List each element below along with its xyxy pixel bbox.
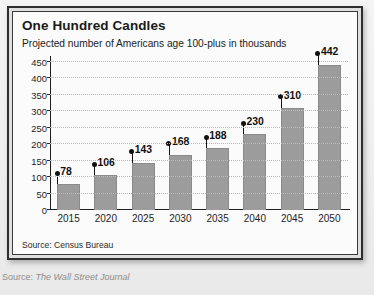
bar[interactable] (243, 134, 266, 210)
chart-subtitle: Projected number of Americans age 100-pl… (22, 38, 286, 49)
chart-source-note: Source: Census Bureau (22, 240, 113, 250)
x-axis-tick-label: 2035 (207, 213, 229, 224)
bar-marker-dot (92, 162, 97, 167)
figure-caption: Source: The Wall Street Journal (2, 272, 129, 282)
bar-slot: 782015 (50, 62, 87, 210)
chart-plot: 7820151062020143202516820301882035230204… (22, 56, 352, 236)
bar-marker-dot (55, 171, 60, 176)
bar-marker-dot (241, 121, 246, 126)
bar-value-label: 188 (209, 130, 226, 141)
bar-value-label: 106 (97, 157, 114, 168)
bar-slot: 4422050 (311, 62, 348, 210)
bar-slot: 3102045 (274, 62, 311, 210)
x-axis-tick-label: 2050 (318, 213, 340, 224)
gridline (50, 110, 348, 111)
y-axis-tick-mark (47, 61, 50, 62)
y-axis-tick-mark (47, 209, 50, 210)
bar-slot: 1062020 (87, 62, 124, 210)
gridline (50, 160, 348, 161)
y-axis-tick-mark (47, 94, 50, 95)
y-axis-tick-label: 200 (31, 139, 47, 150)
y-axis-tick-label: 0 (42, 205, 47, 216)
bar-value-label: 143 (135, 144, 152, 155)
y-axis-tick-mark (47, 127, 50, 128)
bar[interactable] (318, 65, 341, 210)
bar-marker-dot (129, 149, 134, 154)
figure-inner-panel: One Hundred Candles Projected number of … (12, 11, 358, 255)
bar[interactable] (57, 184, 80, 210)
bar-slot: 1682030 (162, 62, 199, 210)
gridline (50, 193, 348, 194)
bar-series: 7820151062020143202516820301882035230204… (50, 62, 348, 210)
figure-frame: One Hundred Candles Projected number of … (7, 6, 363, 260)
bar-value-label: 310 (284, 90, 301, 101)
x-axis-tick-label: 2045 (281, 213, 303, 224)
gridline (50, 176, 348, 177)
gridline (50, 77, 348, 78)
bar-value-label: 168 (172, 136, 189, 147)
caption-prefix: Source: (2, 272, 36, 282)
y-axis-tick-mark (47, 160, 50, 161)
y-axis-tick-mark (47, 193, 50, 194)
x-axis-tick-label: 2030 (169, 213, 191, 224)
x-axis-tick-label: 2015 (58, 213, 80, 224)
chart-title: One Hundred Candles (22, 18, 166, 33)
gridline (50, 127, 348, 128)
bar-slot: 1882035 (199, 62, 236, 210)
bar-marker-dot (204, 135, 209, 140)
y-axis-tick-label: 300 (31, 106, 47, 117)
caption-publication: The Wall Street Journal (36, 272, 130, 282)
bar-slot: 2302040 (236, 62, 273, 210)
x-axis-tick-label: 2025 (132, 213, 154, 224)
plot-area: 7820151062020143202516820301882035230204… (50, 62, 348, 210)
bar-value-label: 442 (321, 46, 338, 57)
y-axis-tick-label: 100 (31, 172, 47, 183)
bar[interactable] (132, 163, 155, 210)
y-axis-tick-label: 350 (31, 89, 47, 100)
y-axis-tick-label: 400 (31, 73, 47, 84)
gridline (50, 94, 348, 95)
gridline (50, 143, 348, 144)
y-axis-tick-mark (47, 110, 50, 111)
x-axis-tick-label: 2040 (244, 213, 266, 224)
y-axis-tick-label: 150 (31, 155, 47, 166)
bar-marker-dot (278, 94, 283, 99)
gridline (50, 61, 348, 62)
bar[interactable] (206, 148, 229, 210)
bar-value-label: 230 (246, 116, 263, 127)
x-axis-tick-label: 2020 (95, 213, 117, 224)
y-axis-tick-label: 50 (37, 188, 47, 199)
bar-marker-dot (315, 51, 320, 56)
y-axis-tick-mark (47, 77, 50, 78)
bar-slot: 1432025 (125, 62, 162, 210)
y-axis-tick-label: 250 (31, 122, 47, 133)
y-axis-tick-mark (47, 176, 50, 177)
y-axis-tick-mark (47, 143, 50, 144)
bar[interactable] (169, 155, 192, 210)
y-axis-tick-label: 450 (31, 57, 47, 68)
